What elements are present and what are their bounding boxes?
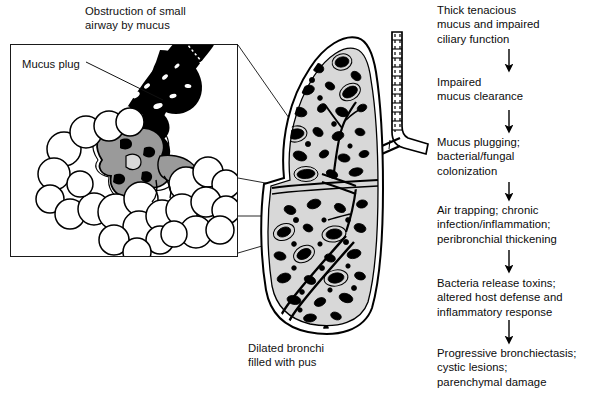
flow-step-3: Mucus plugging; bacterial/fungal coloniz… (437, 135, 597, 178)
flow-step-6: Progressive bronchiectasis; cystic lesio… (437, 346, 603, 389)
flow-step-4: Air trapping; chronic infection/inflamma… (437, 203, 603, 246)
flow-step-1: Thick tenacious mucus and impaired cilia… (437, 3, 597, 46)
lung-illustration (250, 28, 435, 338)
figure-title: Obstruction of small airway by mucus (85, 4, 255, 33)
mucus-plug-label: Mucus plug (22, 57, 80, 71)
lung-caption: Dilated bronchi filled with pus (248, 341, 408, 370)
flow-step-5: Bacteria release toxins; altered host de… (437, 276, 603, 319)
flow-step-2: Impaired mucus clearance (437, 75, 597, 104)
figure-canvas: Obstruction of small airway by mucus (0, 0, 603, 407)
alveoli-illustration (10, 44, 238, 257)
